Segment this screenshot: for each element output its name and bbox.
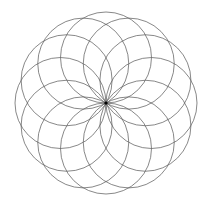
center-point (104, 101, 107, 104)
rosette-diagram (0, 0, 210, 205)
